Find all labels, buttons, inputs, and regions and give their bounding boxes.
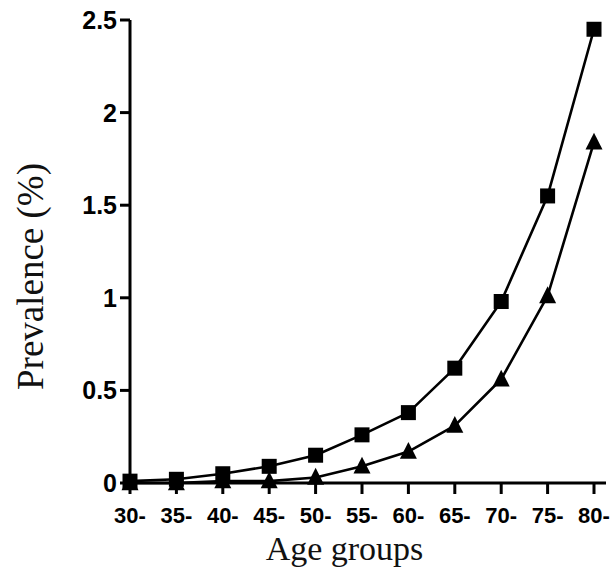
x-axis-tick-label: 35-: [160, 503, 192, 529]
data-point-triangle: [586, 133, 603, 150]
x-axis-tick-label: 80-: [578, 503, 610, 529]
data-point-square: [401, 405, 416, 420]
series-line-1: [130, 29, 594, 481]
data-point-square: [355, 427, 370, 442]
x-axis-tick-label: 40-: [207, 503, 239, 529]
x-axis-tick-label: 30-: [114, 503, 146, 529]
data-point-triangle: [493, 370, 510, 387]
x-axis-tick-label: 45-: [253, 503, 285, 529]
x-axis-tick-label: 65-: [439, 503, 471, 529]
x-axis-title: Age groups: [0, 530, 609, 568]
data-point-square: [308, 448, 323, 463]
x-axis-tick-label: 70-: [485, 503, 517, 529]
data-point-square: [447, 361, 462, 376]
x-axis-tick-label: 55-: [346, 503, 378, 529]
x-axis-tick-label: 60-: [392, 503, 424, 529]
data-point-square: [540, 188, 555, 203]
data-point-square: [494, 294, 509, 309]
x-axis-tick-label: 75-: [532, 503, 564, 529]
data-point-triangle: [400, 442, 417, 459]
data-point-triangle: [539, 286, 556, 303]
data-point-square: [587, 22, 602, 37]
x-axis-tick-label: 50-: [300, 503, 332, 529]
